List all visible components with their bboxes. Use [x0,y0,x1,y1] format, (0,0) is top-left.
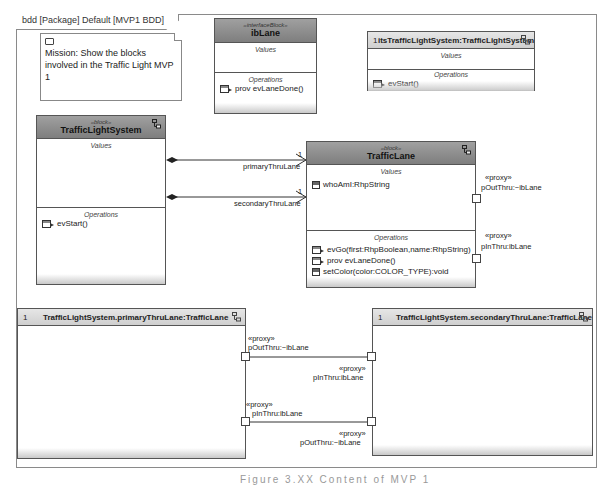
compartment-title: Operations [368,70,534,78]
attribute-icon [312,181,320,189]
operation-icon [220,85,229,93]
multiplicity-label: 1 [23,313,43,322]
block-name: ibLane [215,28,316,41]
operation-label: prov evLaneDone() [235,84,303,93]
gradient-fade [215,103,316,113]
operation-item[interactable]: setColor(color:COLOR_TYPE):void [307,266,475,277]
operation-label: evStart() [57,219,88,228]
gradient-fade [368,81,534,91]
stereotype-label: «block» [307,142,475,151]
port-stereotype: «proxy» [339,429,366,438]
operation-label: setColor(color:COLOR_TYPE):void [323,267,448,276]
compartment-title: Values [368,49,534,59]
block-header: «interfaceBlock» ibLane [215,19,316,43]
operation-item[interactable]: evStart() [37,218,165,229]
stereotype-label: «interfaceBlock» [215,19,316,28]
port-primary-pInThru[interactable] [241,417,250,426]
association-role-label[interactable]: secondaryThruLane [234,199,301,208]
structure-icon [462,145,471,155]
block-name: TrafficLane [307,151,475,164]
stereotype-label: «block» [37,116,165,125]
part-name: TrafficLightSystem.primaryThruLane:Traff… [43,313,228,322]
port-label[interactable]: pOutThru:~ibLane [248,343,309,352]
port-stereotype: «proxy» [485,231,512,240]
part-secondary-thru-lane[interactable]: 1 TrafficLightSystem.secondaryThruLane:T… [372,308,593,456]
part-name: itsTrafficLightSystem:TrafficLightSystem [378,36,534,45]
port-label[interactable]: pInThru:ibLane [481,242,531,251]
block-header: «block» TrafficLane [307,142,475,165]
values-compartment: Values [215,43,316,72]
comment-icon [45,38,54,45]
part-header: 1 TrafficLightSystem.primaryThruLane:Tra… [18,309,245,326]
compartment-title: Values [37,139,165,149]
compartment-title: Operations [307,231,475,241]
note-text: Mission: Show the blocks involved in the… [45,47,177,83]
operation-item[interactable]: evGo(first:RhpBoolean,name:RhpString) [307,244,475,255]
multiplicity-label: 1 [298,150,302,159]
block-iblane[interactable]: «interfaceBlock» ibLane Values Operation… [214,18,317,114]
attribute-label: whoAmI:RhpString [323,180,390,189]
operation-label: evGo(first:RhpBoolean,name:RhpString) [327,245,471,254]
multiplicity-label: 1 [298,187,302,196]
port-stereotype: «proxy» [339,364,366,373]
mission-note[interactable]: Mission: Show the blocks involved in the… [40,33,182,101]
figure-caption: Figure 3.XX Content of MVP 1 [240,474,430,485]
block-its-traffic-light-system[interactable]: 1 itsTrafficLightSystem:TrafficLightSyst… [367,31,535,91]
reception-icon [312,246,321,254]
operation-item[interactable]: prov evLaneDone() [307,255,475,266]
compartment-title: Values [215,43,316,53]
operation-item[interactable]: prov evLaneDone() [215,83,316,94]
operations-compartment: Operations evStart() [37,207,165,284]
operations-compartment: Operations evGo(first:RhpBoolean,name:Rh… [307,230,475,287]
part-name: TrafficLightSystem.secondaryThruLane:Tra… [396,313,592,322]
port-label[interactable]: pOutThru:~ibLane [300,438,361,447]
multiplicity-label: 1 [378,313,396,322]
block-name: TrafficLightSystem [37,125,165,138]
compartment-title: Values [307,165,475,175]
association-role-label[interactable]: primaryThruLane [243,162,300,171]
structure-icon [152,119,161,129]
block-traffic-light-system[interactable]: «block» TrafficLightSystem Values Operat… [36,115,166,285]
structure-icon [521,35,530,45]
gradient-fade [373,445,592,455]
operation-label: prov evLaneDone() [327,256,395,265]
gradient-fade [307,277,475,287]
port-stereotype: «proxy» [248,334,275,343]
operations-compartment: Operations prov evLaneDone() [215,72,316,113]
port-secondary-pInThru[interactable] [367,352,376,361]
gradient-fade [18,448,245,458]
part-primary-thru-lane[interactable]: 1 TrafficLightSystem.primaryThruLane:Tra… [17,308,246,459]
port-stereotype: «proxy» [246,400,273,409]
note-fold [174,33,182,41]
port-label[interactable]: pInThru:ibLane [313,373,363,382]
port-primary-pOutThru[interactable] [241,352,250,361]
port-label[interactable]: pOutThru:~ibLane [481,183,542,192]
operation-icon [312,268,320,276]
part-header: 1 itsTrafficLightSystem:TrafficLightSyst… [368,32,534,49]
structure-icon [232,312,241,322]
block-header: «block» TrafficLightSystem [37,116,165,139]
operation-icon [42,220,51,228]
attribute-item[interactable]: whoAmI:RhpString [307,179,475,190]
compartment-title: Operations [37,208,165,218]
structure-icon [579,312,588,322]
compartment-title: Operations [215,73,316,83]
part-header: 1 TrafficLightSystem.secondaryThruLane:T… [373,309,592,326]
gradient-fade [37,274,165,284]
port-pOutThru[interactable] [472,194,481,203]
values-compartment: Values [368,49,534,69]
port-secondary-pOutThru[interactable] [367,417,376,426]
block-traffic-lane[interactable]: «block» TrafficLane Values whoAmI:RhpStr… [306,141,476,288]
operations-compartment: Operations evStart() [368,69,534,91]
values-compartment: Values [37,139,165,207]
values-compartment: Values whoAmI:RhpString [307,165,475,230]
port-pInThru[interactable] [472,254,481,263]
reception-icon [312,257,321,265]
port-label[interactable]: pInThru:ibLane [252,409,302,418]
port-stereotype: «proxy» [485,173,512,182]
